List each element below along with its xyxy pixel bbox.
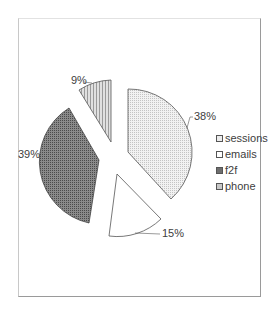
legend-item-sessions[interactable]: sessions <box>216 130 268 146</box>
slice-sessions[interactable] <box>128 89 192 199</box>
slice-emails[interactable] <box>109 174 161 237</box>
slice-f2f[interactable] <box>39 108 99 223</box>
legend-label: f2f <box>225 164 237 176</box>
swatch-icon <box>216 167 223 174</box>
legend-label: sessions <box>225 132 268 144</box>
legend-label: emails <box>225 148 257 160</box>
label-sessions: 38% <box>194 110 216 122</box>
swatch-icon <box>216 151 223 158</box>
label-f2f: 39% <box>18 148 40 160</box>
slice-phone[interactable] <box>79 80 111 142</box>
legend-item-phone[interactable]: phone <box>216 178 268 194</box>
leader-line-emails <box>135 233 160 234</box>
legend-label: phone <box>225 180 256 192</box>
legend-item-emails[interactable]: emails <box>216 146 268 162</box>
swatch-icon <box>216 183 223 190</box>
legend-item-f2f[interactable]: f2f <box>216 162 268 178</box>
chart-legend: sessions emails f2f phone <box>216 130 268 194</box>
label-phone: 9% <box>71 74 87 86</box>
swatch-icon <box>216 135 223 142</box>
label-emails: 15% <box>162 227 184 239</box>
leader-line-sessions <box>187 117 193 128</box>
